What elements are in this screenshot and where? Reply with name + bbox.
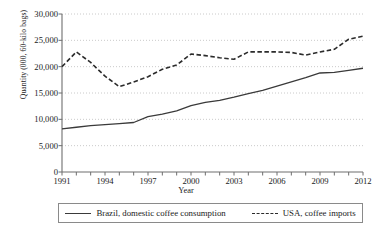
- x-tick-label: 2006: [268, 176, 285, 186]
- x-tick-label: 2009: [311, 176, 328, 186]
- x-tick-label: 1997: [139, 176, 156, 186]
- series-line-usa: [62, 36, 363, 87]
- legend-swatch-solid-icon: [65, 213, 91, 214]
- legend-item-usa: USA, coffee imports: [252, 208, 356, 218]
- legend-item-brazil: Brazil, domestic coffee consumption: [65, 208, 225, 218]
- x-tick-label: 1994: [96, 176, 113, 186]
- x-axis-label: Year: [0, 186, 372, 195]
- x-tick-label: 2012: [354, 176, 371, 186]
- legend-label-usa: USA, coffee imports: [283, 208, 356, 218]
- chart-legend: Brazil, domestic coffee consumption USA,…: [58, 203, 363, 223]
- legend-swatch-dashed-icon: [252, 213, 278, 214]
- x-tick-label: 2000: [182, 176, 199, 186]
- x-tick-label: 2003: [225, 176, 242, 186]
- x-tick-label: 1991: [53, 176, 70, 186]
- legend-label-brazil: Brazil, domestic coffee consumption: [96, 208, 225, 218]
- coffee-line-chart: Quantity (000, 60-kilo bags) 05,00010,00…: [0, 0, 372, 229]
